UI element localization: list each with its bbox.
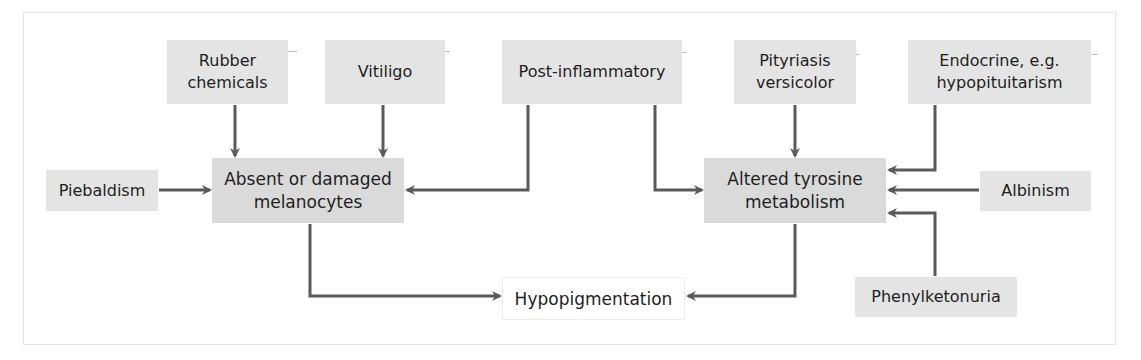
arrow-postinflammatory-to-absent bbox=[407, 105, 528, 190]
node-rubber-chemicals: Rubber chemicals bbox=[167, 40, 288, 104]
node-hypopigmentation: Hypopigmentation bbox=[502, 277, 685, 320]
node-absent-melanocytes: Absent or damaged melanocytes bbox=[212, 158, 404, 223]
arrow-postinflammatory-to-altered bbox=[655, 105, 702, 190]
node-piebaldism: Piebaldism bbox=[46, 170, 158, 211]
node-endocrine: Endocrine, e.g. hypopituitarism bbox=[908, 40, 1091, 104]
arrow-altered-to-hypopigmentation bbox=[688, 224, 795, 296]
node-vitiligo: Vitiligo bbox=[325, 40, 445, 104]
arrow-absent-to-hypopigmentation bbox=[310, 224, 500, 296]
node-post-inflammatory: Post-inflammatory bbox=[502, 40, 682, 104]
node-pityriasis-versicolor: Pityriasis versicolor bbox=[734, 40, 856, 104]
node-albinism: Albinism bbox=[980, 171, 1091, 211]
arrow-phenylketonuria-to-altered bbox=[889, 213, 935, 276]
node-phenylketonuria: Phenylketonuria bbox=[855, 277, 1017, 317]
node-altered-tyrosine: Altered tyrosine metabolism bbox=[704, 158, 886, 223]
arrow-endocrine-to-altered bbox=[889, 105, 935, 170]
